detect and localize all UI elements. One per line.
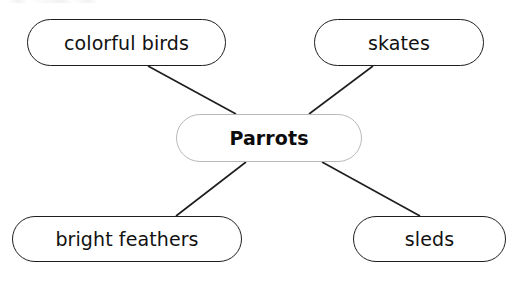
center-node-parrots: Parrots — [176, 114, 362, 162]
center-node-label: Parrots — [229, 127, 308, 149]
node-label: colorful birds — [64, 32, 189, 54]
node-sleds: sleds — [353, 216, 506, 262]
connector-center-to-colorful-birds — [148, 66, 236, 114]
connector-center-to-sleds — [322, 162, 420, 216]
node-label: bright feathers — [55, 228, 198, 250]
node-skates: skates — [314, 19, 484, 66]
node-bright-feathers: bright feathers — [12, 216, 242, 262]
cropped-text-remnant — [8, 0, 108, 3]
node-label: skates — [368, 32, 430, 54]
connector-center-to-skates — [309, 66, 373, 114]
node-label: sleds — [405, 228, 454, 250]
connector-center-to-bright-feathers — [176, 162, 246, 216]
node-colorful-birds: colorful birds — [27, 19, 226, 66]
